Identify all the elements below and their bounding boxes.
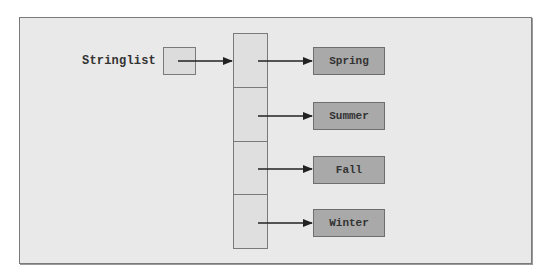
array-cell-2: [234, 141, 267, 195]
variable-label: Stringlist: [82, 54, 156, 68]
string-label: Summer: [329, 110, 369, 122]
string-box-spring: Spring: [313, 47, 385, 75]
string-label: Fall: [336, 164, 362, 176]
array-cell-0: [234, 34, 267, 88]
array-cell-1: [234, 88, 267, 142]
string-label: Winter: [329, 217, 369, 229]
string-box-fall: Fall: [313, 156, 385, 184]
pointer-array: [233, 33, 268, 249]
pointer-box: [163, 47, 196, 75]
string-box-winter: Winter: [313, 209, 385, 237]
string-box-summer: Summer: [313, 102, 385, 130]
array-cell-3: [234, 195, 267, 248]
string-label: Spring: [329, 55, 369, 67]
